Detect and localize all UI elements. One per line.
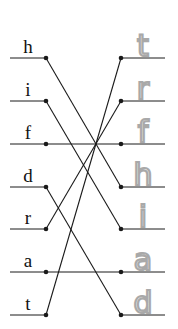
handwritten-letter: t (137, 28, 149, 63)
connection-line-t (46, 58, 121, 315)
handwritten-letter: r (137, 71, 150, 106)
left-letter: h (23, 36, 33, 57)
left-letter: d (23, 165, 33, 186)
right-row-i: i (119, 199, 165, 234)
right-row-h: h (119, 157, 165, 192)
handwritten-letter: h (133, 157, 152, 192)
right-row-d: d (119, 285, 165, 320)
right-row-a: a (119, 242, 165, 277)
left-letter: t (25, 293, 31, 314)
right-row-f: f (119, 114, 165, 149)
letter-matching-worksheet: hifdrat trfhiad (0, 0, 178, 329)
left-letter: f (25, 122, 32, 143)
right-row-r: r (119, 71, 165, 106)
left-letter: r (25, 207, 32, 228)
left-row-f: f (10, 122, 48, 146)
right-column: trfhiad (119, 28, 165, 320)
handwritten-letter: f (138, 114, 150, 149)
connection-line-d (46, 187, 121, 315)
left-row-i: i (10, 79, 48, 103)
right-row-t: t (119, 28, 165, 63)
connection-lines (46, 58, 121, 315)
handwritten-letter: d (133, 285, 152, 320)
handwritten-letter: i (139, 199, 147, 234)
connection-line-h (46, 58, 121, 187)
left-row-h: h (10, 36, 48, 60)
left-row-r: r (10, 207, 48, 231)
left-letter: i (25, 79, 30, 100)
left-letter: a (24, 250, 33, 271)
handwritten-letter: a (134, 242, 152, 277)
left-row-a: a (10, 250, 48, 274)
left-column: hifdrat (10, 36, 48, 317)
left-row-d: d (10, 165, 48, 189)
left-row-t: t (10, 293, 48, 317)
